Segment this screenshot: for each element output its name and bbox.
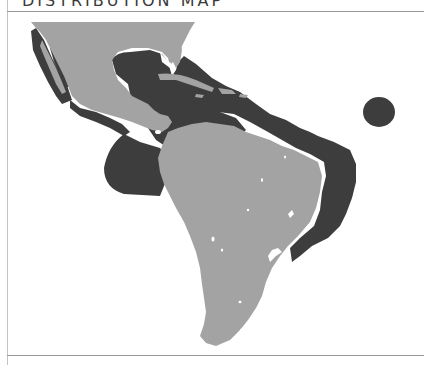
distribution-map: [0, 0, 424, 365]
